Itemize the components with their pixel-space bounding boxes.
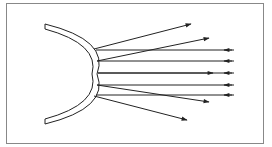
convex-mirror-diagram <box>0 0 272 147</box>
